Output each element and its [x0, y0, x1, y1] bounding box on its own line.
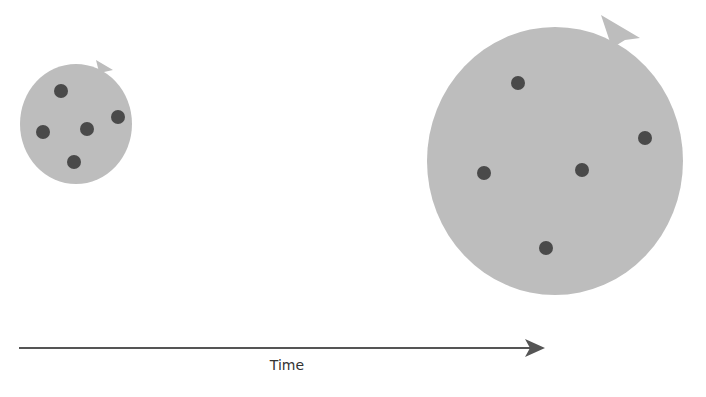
time-axis-label: Time	[262, 357, 312, 373]
galaxy-dot	[111, 110, 125, 124]
galaxy-dot	[54, 84, 68, 98]
galaxy-dot	[67, 155, 81, 169]
galaxy-dot	[36, 125, 50, 139]
large-balloon	[427, 15, 683, 295]
balloon-body	[427, 27, 683, 295]
galaxy-dot	[80, 122, 94, 136]
galaxy-dot	[477, 166, 491, 180]
galaxy-dot	[575, 163, 589, 177]
galaxy-dot	[539, 241, 553, 255]
galaxy-dot	[511, 76, 525, 90]
galaxy-dot	[638, 131, 652, 145]
diagram-canvas	[0, 0, 706, 397]
small-balloon	[20, 60, 132, 184]
